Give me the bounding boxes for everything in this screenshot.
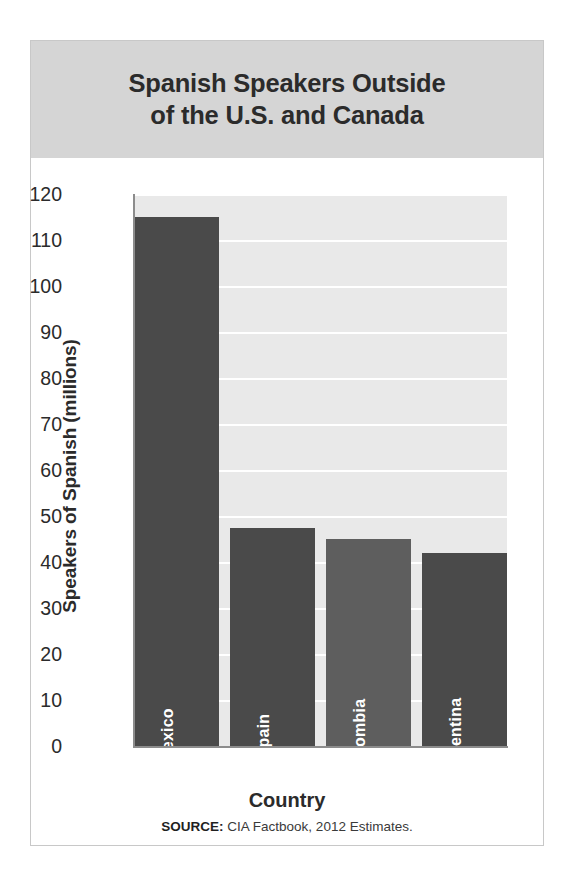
y-axis-tick-label: 10	[2, 689, 62, 712]
y-axis-tick-label: 0	[2, 735, 62, 758]
source-note: SOURCE: CIA Factbook, 2012 Estimates.	[31, 819, 543, 834]
chart-title-line-1: Spanish Speakers Outside	[129, 69, 446, 97]
gridline	[134, 194, 507, 196]
y-axis-tick-label: 30	[2, 597, 62, 620]
y-axis-tick-label: 20	[2, 643, 62, 666]
y-axis-tick-label: 50	[2, 505, 62, 528]
bar-label: Spain	[255, 714, 273, 759]
page-title: Spanish Speakers Outside of the U.S. and…	[115, 68, 460, 130]
bar-label: Colombia	[351, 699, 369, 774]
y-axis-title: Speakers of Spanish (millions)	[59, 339, 81, 613]
y-axis-tick-label: 100	[2, 275, 62, 298]
title-banner: Spanish Speakers Outside of the U.S. and…	[31, 41, 543, 158]
y-axis-tick-label: 90	[2, 321, 62, 344]
bar-colombia: Colombia	[326, 539, 411, 746]
bar-label: Mexico	[159, 708, 177, 763]
chart-title-line-2: of the U.S. and Canada	[150, 101, 423, 129]
bar-argentina: Argentina	[422, 553, 507, 746]
bar-spain: Spain	[230, 528, 315, 747]
source-label: SOURCE:	[161, 819, 223, 834]
y-axis-line	[133, 194, 135, 748]
x-axis-line	[133, 746, 508, 748]
y-axis-tick-label: 110	[2, 229, 62, 252]
x-axis-title: Country	[31, 789, 543, 812]
y-axis-tick-label: 40	[2, 551, 62, 574]
bar-mexico: Mexico	[134, 217, 219, 746]
y-axis-tick-label: 80	[2, 367, 62, 390]
y-axis-tick-label: 120	[2, 183, 62, 206]
source-value: CIA Factbook, 2012 Estimates.	[224, 819, 413, 834]
bar-label: Argentina	[447, 698, 465, 774]
y-axis-tick-label: 70	[2, 413, 62, 436]
y-axis-tick-label: 60	[2, 459, 62, 482]
plot-area: MexicoSpainColombiaArgentina	[134, 194, 507, 746]
chart-figure: Spanish Speakers Outside of the U.S. and…	[30, 40, 544, 846]
